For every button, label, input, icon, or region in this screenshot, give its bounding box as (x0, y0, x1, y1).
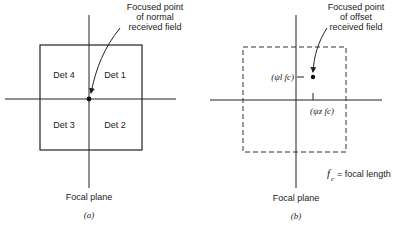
det-2-label: Det 2 (104, 120, 126, 130)
y-offset-label: (ψl fc) (271, 72, 294, 82)
legend-text: = focal length (337, 169, 391, 179)
det-1-label: Det 1 (104, 70, 126, 80)
annotation-arrow (91, 28, 120, 93)
figure-b: Focused point of offset received field (… (210, 2, 391, 221)
focal-plane-label: Focal plane (66, 192, 113, 202)
det-4-label: Det 4 (53, 70, 75, 80)
legend-subscript: c (331, 175, 335, 183)
caption-a: (a) (84, 210, 95, 220)
annotation-arrow (313, 28, 327, 72)
annotation-line-3: received field (329, 22, 382, 32)
x-offset-label: (ψz fc) (310, 106, 334, 116)
focal-length-legend: f c = focal length (327, 167, 391, 183)
diagram-canvas: Focused point of normal received field D… (0, 0, 396, 226)
annotation-line-1: Focused point (328, 2, 385, 12)
annotation-line-2: of normal (136, 12, 174, 22)
annotation-line-2: of offset (340, 12, 372, 22)
offset-focused-point-dot (311, 75, 315, 79)
annotation-line-1: Focused point (127, 2, 184, 12)
det-3-label: Det 3 (53, 120, 75, 130)
annotation-line-3: received field (128, 22, 181, 32)
caption-b: (b) (291, 211, 302, 221)
figure-a: Focused point of normal received field D… (5, 2, 184, 220)
focused-point-dot (87, 97, 92, 102)
focal-plane-label: Focal plane (273, 193, 320, 203)
detector-array-square (40, 45, 142, 150)
